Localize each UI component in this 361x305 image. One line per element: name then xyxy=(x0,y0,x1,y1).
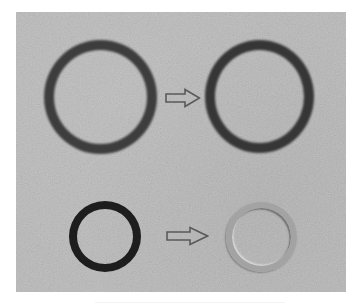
large-o-ring-after xyxy=(205,40,314,153)
small-o-ring-after-faded xyxy=(226,202,297,272)
o-ring-photograph xyxy=(16,12,346,292)
bottom-edge-artifact xyxy=(95,302,285,303)
arrow-right-icon xyxy=(165,88,201,108)
arrow-right-icon xyxy=(166,226,209,246)
small-o-ring-before xyxy=(69,201,141,272)
large-o-ring-before xyxy=(44,40,157,154)
